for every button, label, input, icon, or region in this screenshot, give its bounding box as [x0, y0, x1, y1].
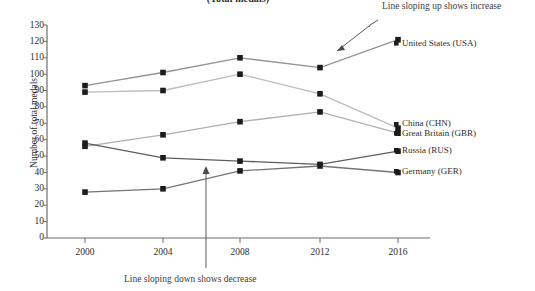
series-markers-russia	[82, 140, 401, 167]
series-line-great-britain	[85, 112, 398, 146]
series-label-germany: Germany (GER)	[402, 166, 462, 176]
legend-marker-great-britain	[394, 131, 399, 136]
legend-marker-russia	[394, 148, 399, 153]
legend-marker-china	[394, 122, 399, 127]
series-label-russia: Russia (RUS)	[402, 145, 452, 155]
annotation-arrow-increase	[337, 20, 378, 51]
annotation-decrease: Line sloping down shows decrease	[124, 274, 256, 285]
series-label-china: China (CHN)	[402, 118, 451, 128]
series-markers-great-britain	[82, 109, 401, 149]
chart-canvas: (Total medals) Number of total medals 13…	[0, 0, 535, 291]
series-line-united-states	[85, 40, 398, 86]
series-label-united-states: United States (USA)	[402, 38, 477, 48]
annotation-arrow-decrease	[203, 166, 210, 268]
legend-marker-united-states	[394, 41, 399, 46]
annotation-increase: Line sloping up shows increase	[382, 1, 501, 12]
x-axis-ticks	[85, 238, 398, 243]
series-label-great-britain: Great Britain (GBR)	[402, 128, 476, 138]
series-markers-united-states	[82, 37, 401, 89]
legend-marker-germany	[394, 169, 399, 174]
